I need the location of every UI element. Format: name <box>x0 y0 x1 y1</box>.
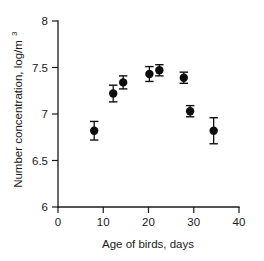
x-tick-label-30: 30 <box>187 216 200 228</box>
data-point-marker <box>119 78 127 86</box>
x-tick-label-10: 10 <box>97 216 110 228</box>
data-point-marker <box>109 89 117 97</box>
data-point-marker <box>180 74 188 82</box>
y-tick-label-6: 6 <box>42 201 48 213</box>
data-point-marker <box>209 127 217 135</box>
data-point-group <box>155 65 163 76</box>
x-tick-label-40: 40 <box>233 216 246 228</box>
y-axis-title: Number concentration, log/m <box>12 40 24 188</box>
data-point-group <box>145 67 153 82</box>
scatter-plot-canvas: 6 6.5 7 7.5 8 0 10 20 30 40 Age of birds… <box>0 0 264 261</box>
x-tick-label-0: 0 <box>55 216 61 228</box>
y-axis-tick-labels: 6 6.5 7 7.5 8 <box>32 15 48 213</box>
y-axis-title-group: Number concentration, log/m 3 <box>10 31 24 188</box>
data-point-group <box>90 121 98 140</box>
data-point-group <box>109 85 117 102</box>
y-tick-label-8: 8 <box>42 15 48 27</box>
data-point-group <box>180 72 188 83</box>
y-tick-label-7: 7 <box>42 108 48 120</box>
x-axis-ticks <box>58 207 239 213</box>
data-point-marker <box>90 127 98 135</box>
x-axis-tick-labels: 0 10 20 30 40 <box>55 216 246 228</box>
x-axis-title: Age of birds, days <box>102 238 194 250</box>
x-tick-label-20: 20 <box>142 216 155 228</box>
data-point-marker <box>155 66 163 74</box>
y-tick-label-7-5: 7.5 <box>32 62 48 74</box>
y-axis-ticks <box>52 21 58 207</box>
data-point-group <box>186 106 194 117</box>
data-point-marker <box>186 107 194 115</box>
data-point-group <box>209 118 217 144</box>
chart-figure: 6 6.5 7 7.5 8 0 10 20 30 40 Age of birds… <box>0 0 264 261</box>
data-point-marker <box>145 70 153 78</box>
data-point-group <box>119 76 127 89</box>
y-tick-label-6-5: 6.5 <box>32 155 48 167</box>
data-series-points <box>90 65 218 144</box>
y-axis-title-exponent: 3 <box>10 31 19 36</box>
